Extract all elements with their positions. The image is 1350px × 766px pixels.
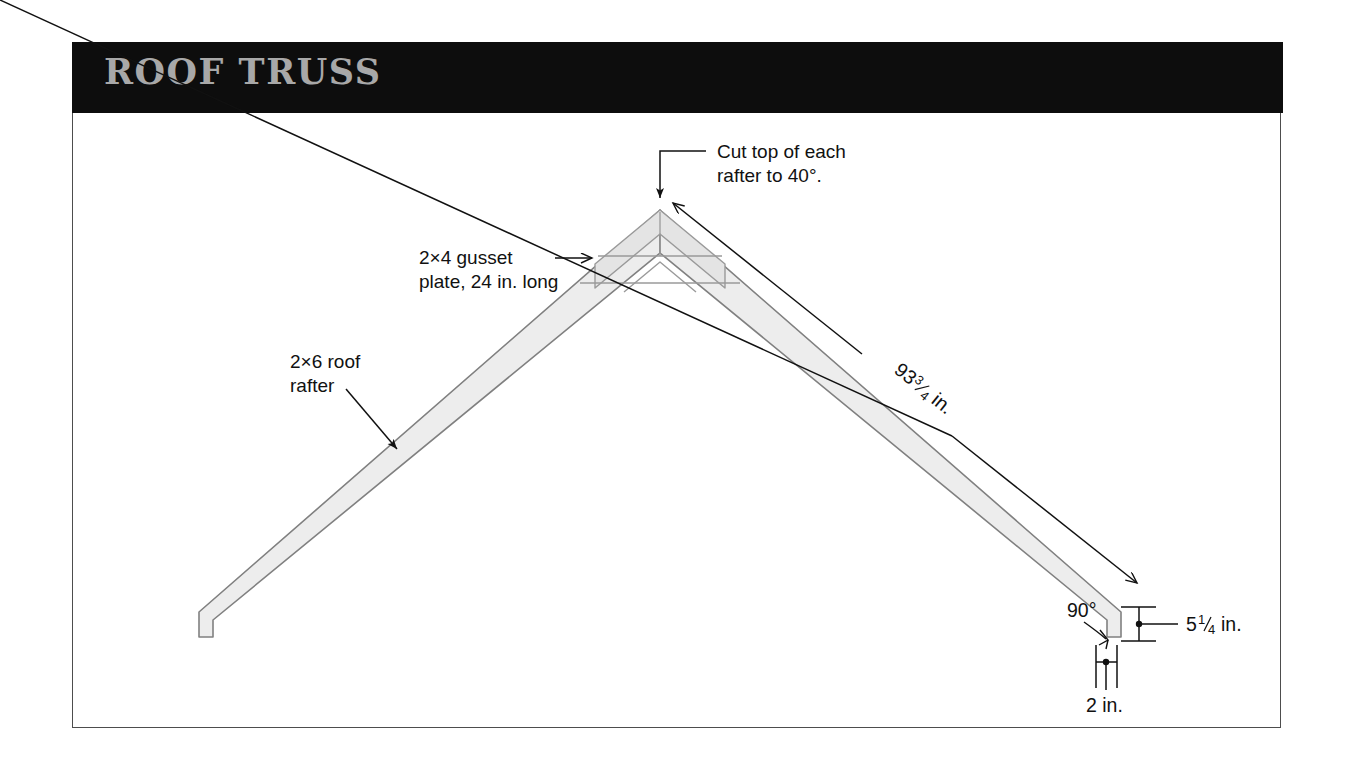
depth-dimension: 5 1 4 in. (1121, 607, 1242, 641)
width-dimension: 2 in. (1086, 645, 1123, 716)
peak-note-line1: Cut top of each (717, 141, 846, 162)
gusset-plate (580, 210, 740, 292)
corner-angle-label: 90° (1067, 599, 1097, 621)
rafter-length-units: in. (928, 388, 958, 418)
depth-dimension-whole: 5 (1186, 613, 1197, 635)
rafter-annotation: 2×6 roof rafter (290, 351, 397, 449)
rafter-note-line2: rafter (290, 375, 335, 396)
gusset-annotation: 2×4 gusset plate, 24 in. long (419, 247, 592, 292)
page-root: ROOF TRUSS (0, 0, 1350, 766)
depth-dimension-units: in. (1221, 613, 1242, 635)
peak-cut-annotation: Cut top of each rafter to 40°. (660, 141, 846, 198)
roof-truss-drawing: Cut top of each rafter to 40°. 93 3 4 in… (0, 0, 1350, 766)
gusset-note-line2: plate, 24 in. long (419, 271, 558, 292)
depth-dimension-numerator: 1 (1198, 612, 1205, 627)
width-dimension-label: 2 in. (1086, 694, 1123, 716)
depth-dimension-denominator: 4 (1208, 622, 1215, 637)
gusset-note-line1: 2×4 gusset (419, 247, 513, 268)
peak-note-line2: rafter to 40°. (717, 165, 822, 186)
rafter-note-line1: 2×6 roof (290, 351, 361, 372)
right-roof-rafter (660, 210, 1121, 637)
